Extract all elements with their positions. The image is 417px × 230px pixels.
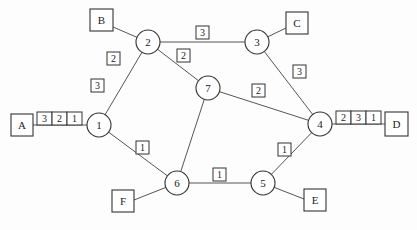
router-label: 4 bbox=[317, 118, 323, 130]
router-label: 6 bbox=[174, 177, 180, 189]
router-label: 7 bbox=[205, 82, 211, 94]
router-6: 6 bbox=[165, 171, 189, 195]
weight-label: 2 bbox=[256, 85, 261, 96]
host-label: E bbox=[312, 194, 319, 206]
router-label: 1 bbox=[96, 119, 102, 131]
links bbox=[33, 27, 385, 200]
router-1: 1 bbox=[87, 113, 111, 137]
weight-label: 3 bbox=[95, 80, 100, 91]
link-3-4 bbox=[257, 42, 320, 124]
link-7-6 bbox=[177, 88, 208, 183]
weight-label: 2 bbox=[181, 50, 186, 61]
queue-near-D: 2 3 1 bbox=[336, 111, 381, 124]
host-B: B bbox=[90, 9, 113, 31]
host-label: B bbox=[98, 14, 105, 26]
diagram-svg: 3 2 1 2 3 1 2 3 3 2 3 2 1 1 1 A B C D E bbox=[0, 0, 417, 230]
routers: 1 2 3 4 5 6 7 bbox=[87, 30, 332, 195]
weight-labels: 2 3 3 2 3 2 1 1 1 bbox=[91, 26, 306, 181]
weight-label: 3 bbox=[297, 66, 302, 77]
host-F: F bbox=[112, 190, 134, 212]
network-diagram: 3 2 1 2 3 1 2 3 3 2 3 2 1 1 1 A B C D E bbox=[0, 0, 417, 230]
weight-label: 1 bbox=[217, 169, 222, 180]
host-A: A bbox=[11, 114, 33, 136]
queue-near-A: 3 2 1 bbox=[37, 112, 82, 125]
queue-a-cell-2: 2 bbox=[57, 113, 62, 124]
host-E: E bbox=[304, 189, 326, 211]
queue-d-cell-2: 3 bbox=[356, 112, 361, 123]
link-1-2 bbox=[99, 42, 148, 125]
queue-d-cell-1: 2 bbox=[341, 112, 346, 123]
host-D: D bbox=[385, 112, 408, 136]
router-7: 7 bbox=[196, 76, 220, 100]
host-C: C bbox=[286, 12, 308, 34]
weight-label: 3 bbox=[200, 27, 205, 38]
weight-label: 1 bbox=[282, 144, 287, 155]
queue-a-cell-1: 3 bbox=[42, 113, 47, 124]
router-3: 3 bbox=[245, 30, 269, 54]
queue-d-cell-3: 1 bbox=[371, 112, 376, 123]
router-label: 3 bbox=[254, 36, 260, 48]
host-label: F bbox=[120, 195, 126, 207]
queue-a-cell-3: 1 bbox=[72, 113, 77, 124]
router-4: 4 bbox=[308, 112, 332, 136]
host-label: C bbox=[293, 17, 300, 29]
host-label: D bbox=[393, 118, 401, 130]
router-label: 2 bbox=[145, 36, 151, 48]
host-label: A bbox=[18, 119, 26, 131]
router-5: 5 bbox=[251, 171, 275, 195]
weight-label: 1 bbox=[140, 142, 145, 153]
router-label: 5 bbox=[260, 177, 266, 189]
router-2: 2 bbox=[136, 30, 160, 54]
weight-label: 2 bbox=[111, 53, 116, 64]
